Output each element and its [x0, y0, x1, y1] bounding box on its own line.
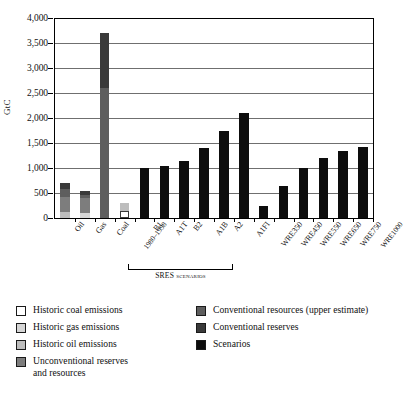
x-category-label: Gas	[93, 220, 108, 235]
legend-item: Historic gas emissions	[16, 321, 196, 333]
bar-segment	[140, 168, 150, 218]
x-category-label: B2	[192, 220, 205, 233]
bar-coal	[100, 33, 110, 218]
plot-right-border	[373, 18, 374, 219]
sres-group-annotation: SRES scenarios	[128, 264, 233, 282]
bar-segment	[160, 166, 170, 219]
legend-item: Scenarios	[196, 338, 384, 350]
bar-segment	[100, 88, 110, 218]
bar-gas	[80, 191, 90, 219]
bar-wre350	[259, 206, 269, 219]
x-category-label: Oil	[73, 220, 86, 233]
legend-label: Unconventional reservesand resources	[33, 355, 128, 378]
bar-wre650	[319, 158, 329, 218]
y-tick-mark	[48, 168, 53, 169]
y-axis-tick-labels: 4,0003,5003,0002,5002,0001,5001,0005000	[0, 0, 54, 300]
bar-1980-1998	[120, 203, 130, 218]
legend-label: Historic gas emissions	[33, 321, 119, 333]
bar-segment	[60, 189, 70, 197]
y-tick-mark	[48, 143, 53, 144]
bar-segment	[338, 151, 348, 219]
legend-label: Conventional resources (upper estimate)	[213, 304, 368, 316]
y-tick-mark	[48, 68, 53, 69]
bar-wre750	[338, 151, 348, 219]
y-tick-mark	[48, 43, 53, 44]
y-tick-label: 2,000	[27, 113, 48, 123]
legend-swatch-icon	[196, 306, 206, 316]
legend-swatch-icon	[196, 323, 206, 333]
legend-swatch-icon	[16, 306, 26, 316]
bar-b1	[140, 168, 150, 218]
bar-series-container	[55, 18, 373, 218]
y-tick-label: 1,500	[27, 138, 48, 148]
bar-segment	[259, 206, 269, 219]
bar-segment	[358, 147, 368, 219]
legend-label: Historic coal emissions	[33, 304, 123, 316]
legend-column-left: Historic coal emissionsHistoric gas emis…	[16, 304, 196, 384]
bar-segment	[80, 198, 90, 213]
bar-segment	[100, 33, 110, 88]
plot-area	[54, 18, 373, 219]
bar-segment	[319, 158, 329, 218]
bar-wre550	[299, 168, 309, 218]
legend-column-right: Conventional resources (upper estimate)C…	[196, 304, 384, 355]
legend-swatch-icon	[16, 323, 26, 333]
chart-legend: Historic coal emissionsHistoric gas emis…	[0, 300, 385, 394]
x-category-label: A1B	[214, 220, 230, 237]
sres-bracket	[128, 264, 233, 270]
sres-caption: SRES scenarios	[128, 271, 233, 280]
legend-item: Conventional reserves	[196, 321, 384, 333]
y-tick-mark	[48, 218, 53, 219]
legend-label: Conventional reserves	[213, 321, 299, 333]
y-tick-label: 1,000	[27, 163, 48, 173]
legend-item: Conventional resources (upper estimate)	[196, 304, 384, 316]
legend-swatch-icon	[16, 357, 26, 367]
y-tick-mark	[48, 193, 53, 194]
bar-segment	[80, 213, 90, 219]
legend-item: Historic coal emissions	[16, 304, 196, 316]
y-tick-mark	[48, 93, 53, 94]
bar-wre1000	[358, 147, 368, 219]
bar-segment	[199, 148, 209, 218]
bar-segment	[60, 212, 70, 219]
bar-segment	[179, 161, 189, 219]
legend-swatch-icon	[16, 340, 26, 350]
x-category-label: Coal	[114, 220, 130, 237]
x-category-label: A1FI	[254, 220, 271, 239]
bar-segment	[120, 211, 130, 219]
legend-item: Unconventional reservesand resources	[16, 355, 196, 378]
y-tick-label: 500	[34, 188, 48, 198]
legend-item: Historic oil emissions	[16, 338, 196, 350]
bar-segment	[279, 186, 289, 219]
plot-area-wrapper: GtC 4,0003,5003,0002,5002,0001,5001,0005…	[0, 0, 385, 300]
bar-a1fi	[239, 113, 249, 218]
bar-wre450	[279, 186, 289, 219]
bar-a1t	[160, 166, 170, 219]
bar-a1b	[199, 148, 209, 218]
bar-segment	[299, 168, 309, 218]
y-tick-label: 3,000	[27, 63, 48, 73]
bar-a2	[219, 131, 229, 219]
bar-segment	[239, 113, 249, 218]
x-category-label: A1T	[174, 220, 190, 237]
y-tick-mark	[48, 18, 53, 19]
y-tick-label: 2,500	[27, 88, 48, 98]
bar-oil	[60, 183, 70, 218]
bar-b2	[179, 161, 189, 219]
x-category-label: A2	[232, 220, 245, 233]
bar-segment	[219, 131, 229, 219]
y-tick-label: 3,500	[27, 38, 48, 48]
y-tick-mark	[48, 118, 53, 119]
legend-swatch-icon	[196, 340, 206, 350]
y-tick-label: 4,000	[27, 13, 48, 23]
bar-segment	[120, 203, 130, 211]
bar-segment	[60, 197, 70, 212]
legend-label: Historic oil emissions	[33, 338, 117, 350]
legend-label: Scenarios	[213, 338, 250, 350]
